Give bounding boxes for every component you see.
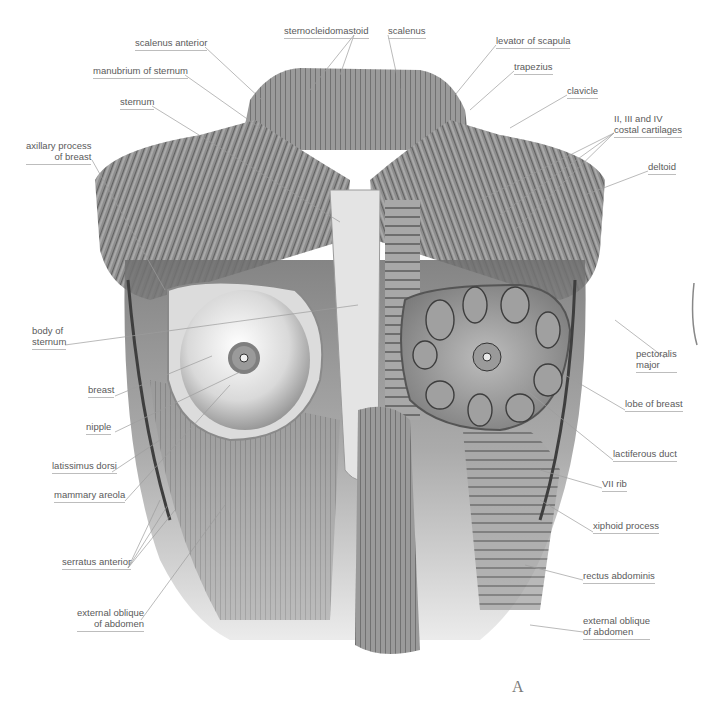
leader-line <box>510 95 567 128</box>
label-lobe-of-breast: lobe of breast <box>625 398 683 412</box>
label-xiphoid-process: xiphoid process <box>593 520 659 534</box>
label-lactiferous-duct: lactiferous duct <box>613 448 677 462</box>
label-vii-rib: VII rib <box>602 478 627 492</box>
label-scalenus-anterior: scalenus anterior <box>135 37 207 51</box>
label-axillary-process-of-breast: axillary processof breast <box>26 140 91 165</box>
label-costal-cartilages: II, III and IVcostal cartilages <box>614 113 682 138</box>
rectus-abdominis <box>355 407 420 654</box>
label-body-of-sternum: body ofsternum <box>32 325 66 350</box>
label-nipple: nipple <box>86 421 111 435</box>
label-trapezius: trapezius <box>514 61 553 75</box>
leader-line <box>455 45 496 95</box>
anatomy-illustration <box>0 0 701 703</box>
label-external-oblique-right: external obliqueof abdomen <box>583 615 650 640</box>
label-latissimus-dorsi: latissimus dorsi <box>52 460 117 474</box>
label-mammary-areola: mammary areola <box>54 489 125 503</box>
leader-line <box>185 75 260 128</box>
label-rectus-abdominis: rectus abdominis <box>583 570 655 584</box>
label-sternocleidomastoid: sternocleidomastoid <box>284 25 369 39</box>
leader-line <box>530 625 583 632</box>
nipple <box>240 354 248 362</box>
label-external-oblique-left: external obliqueof abdomen <box>77 607 144 632</box>
label-manubrium-of-sternum: manubrium of sternum <box>93 65 188 79</box>
panel-letter: A <box>512 678 524 696</box>
label-pectoralis-major: pectoralismajor <box>636 348 677 373</box>
label-scalenus: scalenus <box>388 25 426 39</box>
leader-line <box>470 71 514 110</box>
label-clavicle: clavicle <box>567 85 598 99</box>
label-sternum: sternum <box>120 96 154 110</box>
label-deltoid: deltoid <box>648 161 676 175</box>
label-breast: breast <box>88 384 114 398</box>
label-serratus-anterior: serratus anterior <box>62 556 131 570</box>
label-levator-of-scapula: levator of scapula <box>496 35 570 49</box>
leader-line <box>205 47 262 100</box>
